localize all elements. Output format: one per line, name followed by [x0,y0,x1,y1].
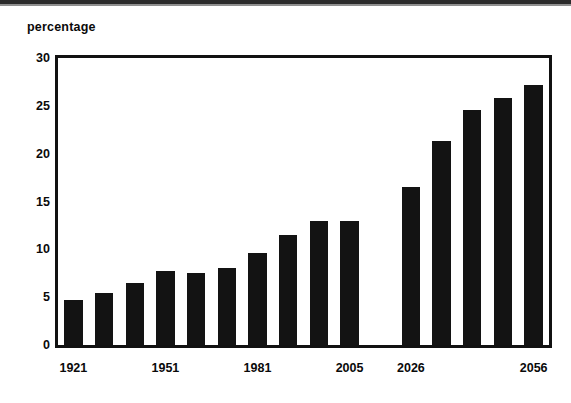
x-axis-tick-label: 2005 [336,361,364,375]
x-axis-tick-label: 2026 [397,361,425,375]
x-axis-tick-label: 1921 [59,361,87,375]
x-axis-tick-label: 2056 [520,361,548,375]
chart-figure: percentage 051015202530 1921195119812005… [0,0,571,403]
x-axis-tick-labels: 192119511981200520262056 [0,0,571,403]
x-axis-tick-label: 1951 [152,361,180,375]
x-axis-tick-label: 1981 [244,361,272,375]
